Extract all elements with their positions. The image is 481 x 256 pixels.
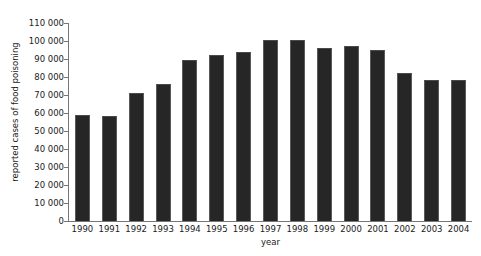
y-axis-tick-label: 10 000 — [18, 199, 64, 208]
bar-slot — [150, 23, 177, 221]
y-axis-tick-mark — [64, 149, 68, 150]
x-axis-tick-label: 2000 — [338, 224, 365, 235]
x-axis-tick-label: 2002 — [391, 224, 418, 235]
bar-slot — [365, 23, 392, 221]
y-axis-tick-labels: 010 00020 00030 00040 00050 00060 00070 … — [18, 0, 64, 256]
bar-slot — [257, 23, 284, 221]
y-axis-tick-mark — [64, 59, 68, 60]
bar-slot — [203, 23, 230, 221]
bar[interactable] — [344, 46, 359, 222]
x-axis-tick-label: 2003 — [418, 224, 445, 235]
bar-slot — [176, 23, 203, 221]
y-axis-tick-mark — [64, 221, 68, 222]
y-axis-tick-label: 60 000 — [18, 109, 64, 118]
bar[interactable] — [156, 84, 171, 221]
bar[interactable] — [397, 73, 412, 221]
x-axis-tick-label: 1995 — [203, 224, 230, 235]
bar-slot — [123, 23, 150, 221]
y-axis-tick-mark — [64, 167, 68, 168]
bar-slot — [69, 23, 96, 221]
bar[interactable] — [75, 115, 90, 221]
plot-area — [69, 23, 472, 221]
bar[interactable] — [263, 40, 278, 221]
y-axis-tick-label: 110 000 — [18, 19, 64, 28]
y-axis-tick-mark — [64, 23, 68, 24]
bar[interactable] — [129, 93, 144, 221]
y-axis-tick-mark — [64, 77, 68, 78]
y-axis-tick-label: 100 000 — [18, 37, 64, 46]
x-axis-tick-labels: 1990199119921993199419951996199719981999… — [69, 224, 472, 236]
x-axis-title: year — [69, 237, 472, 248]
bar[interactable] — [209, 55, 224, 221]
y-axis-tick-mark — [64, 185, 68, 186]
x-axis-tick-label: 2004 — [445, 224, 472, 235]
y-axis-tick-label: 30 000 — [18, 163, 64, 172]
x-axis-tick-label: 1996 — [230, 224, 257, 235]
bar-slot — [418, 23, 445, 221]
y-axis-tick-mark — [64, 41, 68, 42]
x-axis-tick-label: 1990 — [69, 224, 96, 235]
y-axis-tick-mark — [64, 203, 68, 204]
y-axis-tick-label: 20 000 — [18, 181, 64, 190]
bar-slot — [445, 23, 472, 221]
x-axis-line — [68, 221, 472, 222]
x-axis-tick-label: 2001 — [365, 224, 392, 235]
y-axis-tick-label: 50 000 — [18, 127, 64, 136]
y-axis-tick-label: 40 000 — [18, 145, 64, 154]
bar[interactable] — [236, 52, 251, 221]
bar[interactable] — [451, 80, 466, 221]
y-axis-tick-label: 70 000 — [18, 91, 64, 100]
bar[interactable] — [182, 60, 197, 221]
bar[interactable] — [424, 80, 439, 221]
x-axis-tick-label: 1994 — [176, 224, 203, 235]
x-axis-tick-label: 1998 — [284, 224, 311, 235]
x-axis-tick-label: 1999 — [311, 224, 338, 235]
y-axis-tick-label: 0 — [18, 217, 64, 226]
y-axis-tick-label: 90 000 — [18, 55, 64, 64]
bar-chart: reported cases of food poisoning 010 000… — [0, 0, 481, 256]
y-axis-tick-mark — [64, 131, 68, 132]
x-axis-tick-label: 1992 — [123, 224, 150, 235]
bar[interactable] — [290, 40, 305, 221]
y-axis-tick-label: 80 000 — [18, 73, 64, 82]
bar[interactable] — [317, 48, 332, 221]
bar-slot — [391, 23, 418, 221]
bar-slot — [311, 23, 338, 221]
x-axis-tick-label: 1993 — [150, 224, 177, 235]
bar-slot — [284, 23, 311, 221]
bar[interactable] — [102, 116, 117, 221]
bar[interactable] — [370, 50, 385, 221]
x-axis-tick-label: 1991 — [96, 224, 123, 235]
x-axis-tick-label: 1997 — [257, 224, 284, 235]
y-axis-tick-mark — [64, 113, 68, 114]
bar-slot — [338, 23, 365, 221]
y-axis-tick-mark — [64, 95, 68, 96]
bar-slot — [96, 23, 123, 221]
bar-slot — [230, 23, 257, 221]
